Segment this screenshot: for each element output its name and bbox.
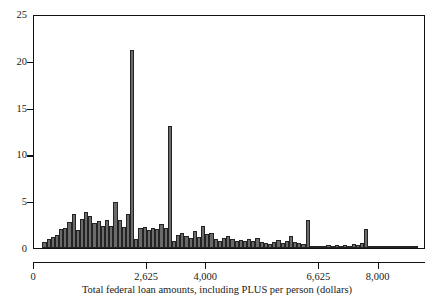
plot-area [33,15,425,249]
y-axis-tick-label: 20 [17,57,28,68]
y-axis-tick-label: 0 [22,244,27,255]
y-axis-tick [27,109,34,110]
y-axis-tick [27,155,34,156]
x-axis-tick-label: 2,625 [134,272,158,283]
x-axis-tick-label: 4,000 [193,272,217,283]
x-axis-title: Total federal loan amounts, including PL… [0,285,434,296]
bar-series [34,16,424,248]
x-axis-tick-label: 0 [30,272,35,283]
x-axis-tick-label: 8,000 [366,272,390,283]
x-axis [33,262,425,263]
histogram-bar [168,126,172,248]
histogram-bar [130,50,134,248]
x-axis-tick [33,262,34,269]
y-axis-tick-label: 10 [17,150,28,161]
y-axis-tick [27,202,34,203]
histogram-bar [414,246,418,248]
x-axis-tick-label: 6,625 [307,272,331,283]
x-axis-tick [146,262,147,269]
histogram-figure: 0510152025 Total federal loan amounts, i… [0,0,434,299]
y-axis-tick-label: 25 [17,10,28,21]
y-axis [33,15,34,249]
x-axis-tick [378,262,379,269]
histogram-bar [306,220,310,248]
x-axis-tick [205,262,206,269]
y-axis-labels: 0510152025 [0,0,33,299]
y-axis-tick [27,62,34,63]
y-axis-tick-label: 15 [17,103,28,114]
x-axis-tick [318,262,319,269]
